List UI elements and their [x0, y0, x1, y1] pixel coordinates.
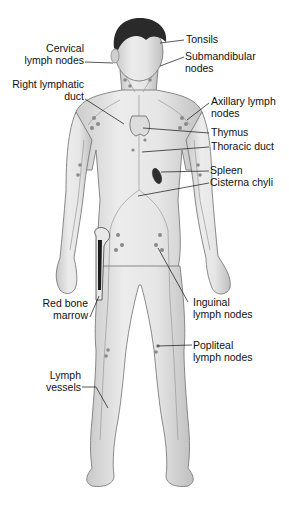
label-submandibular-nodes: Submandibular nodes — [185, 51, 256, 74]
label-inguinal-lymph-nodes: Inguinal lymph nodes — [193, 297, 253, 320]
label-cisterna-chyli: Cisterna chyli — [210, 177, 273, 189]
label-line: nodes — [211, 108, 276, 120]
label-popliteal-lymph-nodes: Popliteal lymph nodes — [193, 340, 253, 363]
label-right-lymphatic-duct: Right lymphatic duct — [12, 79, 84, 102]
lymphatic-system-figure — [0, 0, 289, 509]
label-line: marrow — [42, 310, 88, 322]
label-line: Cisterna chyli — [210, 177, 273, 189]
label-line: Popliteal — [193, 340, 253, 352]
label-line: Thymus — [211, 127, 248, 139]
label-line: lymph nodes — [24, 55, 84, 67]
label-line: vessels — [46, 382, 81, 394]
label-line: Red bone — [42, 298, 88, 310]
label-line: Thoracic duct — [211, 141, 274, 153]
label-spleen: Spleen — [210, 165, 243, 177]
label-thymus: Thymus — [211, 127, 248, 139]
label-cervical-lymph-nodes: Cervical lymph nodes — [24, 43, 84, 66]
label-line: lymph nodes — [193, 309, 253, 321]
label-thoracic-duct: Thoracic duct — [211, 141, 274, 153]
label-lymph-vessels: Lymph vessels — [46, 370, 81, 393]
label-axillary-lymph-nodes: Axillary lymph nodes — [211, 96, 276, 119]
label-red-bone-marrow: Red bone marrow — [42, 298, 88, 321]
label-line: Right lymphatic — [12, 79, 84, 91]
thymus-organ — [130, 116, 150, 136]
label-line: nodes — [185, 63, 256, 75]
label-line: Inguinal — [193, 297, 253, 309]
label-line: Tonsils — [186, 34, 218, 46]
label-line: Axillary lymph — [211, 96, 276, 108]
label-tonsils: Tonsils — [186, 34, 218, 46]
label-line: Cervical — [24, 43, 84, 55]
label-line: Spleen — [210, 165, 243, 177]
label-line: Lymph — [46, 370, 81, 382]
label-line: Submandibular — [185, 51, 256, 63]
label-line: lymph nodes — [193, 352, 253, 364]
label-line: duct — [12, 91, 84, 103]
